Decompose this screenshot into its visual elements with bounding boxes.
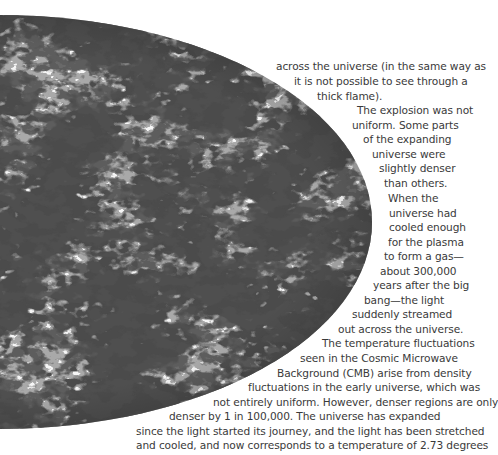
text-line: and cooled, and now corresponds to a tem…	[136, 438, 488, 452]
text-line: slightly denser	[379, 161, 455, 175]
text-line: out across the universe.	[338, 322, 463, 336]
text-line: The explosion was not	[357, 103, 473, 117]
text-line: fluctuations in the early universe, whic…	[248, 380, 480, 394]
text-line: The temperature fluctuations	[322, 336, 475, 350]
text-line: denser by 1 in 100,000. The universe has…	[169, 409, 440, 423]
text-line: to form a gas—	[384, 249, 464, 263]
text-line: of the expanding	[363, 132, 451, 146]
text-line: Background (CMB) arise from density	[277, 366, 472, 380]
text-line: bang—the light	[364, 293, 444, 307]
text-line: suddenly streamed	[352, 307, 452, 321]
text-line: seen in the Cosmic Microwave	[300, 351, 458, 365]
text-line: years after the big	[373, 278, 469, 292]
text-line: thick flame).	[317, 89, 382, 103]
text-line: uniform. Some parts	[352, 118, 459, 132]
text-line: When the	[388, 191, 438, 205]
text-line: it is not possible to see through a	[294, 74, 468, 88]
text-line: for the plasma	[388, 235, 464, 249]
text-line: not entirely uniform. However, denser re…	[213, 395, 498, 409]
text-line: than others.	[384, 176, 447, 190]
text-line: since the light started its journey, and…	[136, 424, 484, 438]
text-line: universe were	[372, 147, 445, 161]
text-line: cooled enough	[389, 220, 466, 234]
text-line: about 300,000	[380, 264, 456, 278]
text-line: across the universe (in the same way as	[276, 59, 486, 73]
text-line: universe had	[389, 206, 457, 220]
